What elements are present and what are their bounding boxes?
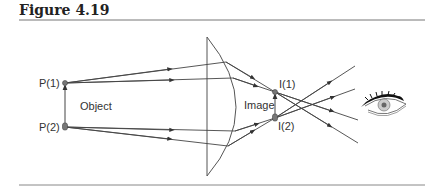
optics-diagram: P(1) P(2) Object Image I(1) I(2) [0,0,437,194]
point-p1 [63,81,68,86]
label-image: Image [244,99,275,111]
label-p2: P(2) [39,121,60,133]
eye-icon [361,91,406,116]
label-object: Object [80,100,112,112]
point-p2 [63,123,68,130]
label-p1: P(1) [39,77,60,89]
point-i1 [273,90,278,95]
lens [207,37,236,176]
point-i2 [273,114,278,121]
label-i1: I(1) [279,78,296,90]
label-i2: I(2) [278,120,295,132]
